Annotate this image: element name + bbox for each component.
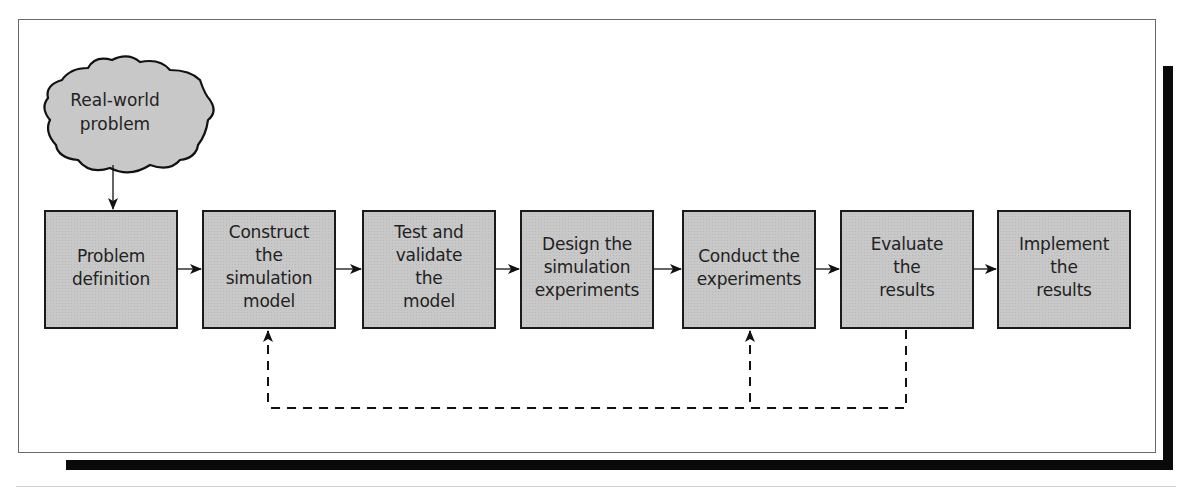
step-implement-results: Implement the results xyxy=(997,210,1131,329)
step-label: Conduct the experiments xyxy=(697,245,801,291)
step-design-experiments: Design the simulation experiments xyxy=(520,210,654,329)
step-problem-definition: Problem definition xyxy=(44,210,178,329)
step-construct-model: Construct the simulation model xyxy=(202,210,336,329)
step-label: Evaluate the results xyxy=(871,233,944,302)
step-label: Implement the results xyxy=(1019,233,1109,302)
step-label: Construct the simulation model xyxy=(226,221,313,313)
step-test-validate: Test and validate the model xyxy=(362,210,496,329)
step-label: Design the simulation experiments xyxy=(535,233,639,302)
real-world-problem-label: Real-world problem xyxy=(40,88,190,136)
step-evaluate-results: Evaluate the results xyxy=(840,210,974,329)
step-label: Problem definition xyxy=(72,245,150,291)
feedback-line xyxy=(268,330,906,408)
step-conduct-experiments: Conduct the experiments xyxy=(682,210,816,329)
step-label: Test and validate the model xyxy=(394,221,463,313)
